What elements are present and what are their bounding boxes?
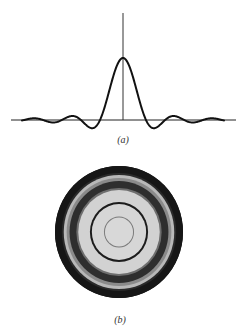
panel-a-plot [11, 13, 236, 128]
panel-b-caption: (b) [100, 314, 140, 325]
disc-ring [105, 218, 133, 247]
panel-a-caption: (a) [103, 134, 143, 145]
figure-canvas [0, 0, 244, 331]
panel-b-airy-disc [55, 166, 183, 298]
